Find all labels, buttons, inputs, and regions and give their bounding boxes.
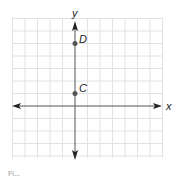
y-axis-label: y (72, 8, 78, 19)
point-c-label: C (79, 83, 87, 94)
point-d-label: D (79, 34, 87, 45)
figure-caption: Fi... (8, 170, 20, 177)
point-c (73, 91, 78, 96)
coordinate-plane: y x D C Fi... (0, 0, 182, 182)
point-d (73, 41, 78, 46)
coordinate-plane-svg (0, 0, 182, 182)
x-axis-label: x (166, 101, 172, 112)
grid (13, 18, 163, 158)
